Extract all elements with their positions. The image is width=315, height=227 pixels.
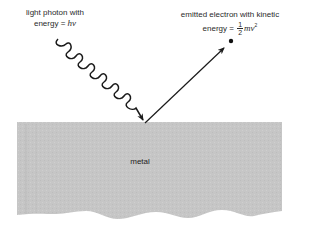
electron-label-line1: emitted electron with kinetic bbox=[170, 10, 290, 20]
exponent: 2 bbox=[255, 22, 258, 28]
fraction-denominator: 2 bbox=[237, 29, 243, 36]
photon-wave-icon bbox=[56, 39, 143, 120]
metal-block bbox=[17, 122, 282, 219]
metal-label: metal bbox=[125, 157, 155, 166]
electron-energy-prefix: energy = bbox=[203, 24, 237, 33]
fraction-numerator: 1 bbox=[237, 21, 243, 29]
electron-label: emitted electron with kinetic energy = 1… bbox=[170, 10, 290, 36]
photon-label-line1: light photon with bbox=[14, 8, 96, 18]
photon-energy-prefix: energy = bbox=[34, 19, 68, 28]
electron-label-line2: energy = 12mv2 bbox=[170, 20, 290, 36]
electron-energy-symbol: mv bbox=[244, 23, 255, 33]
electron-dot-icon bbox=[229, 39, 233, 43]
one-half-fraction: 12 bbox=[237, 21, 243, 36]
photon-label: light photon with energy = hν bbox=[14, 8, 96, 29]
photon-label-line2: energy = hν bbox=[14, 18, 96, 29]
photon-energy-symbol: hν bbox=[68, 18, 77, 28]
photoelectric-diagram: light photon with energy = hν emitted el… bbox=[0, 0, 315, 227]
electron-trajectory-arrow bbox=[145, 48, 224, 123]
